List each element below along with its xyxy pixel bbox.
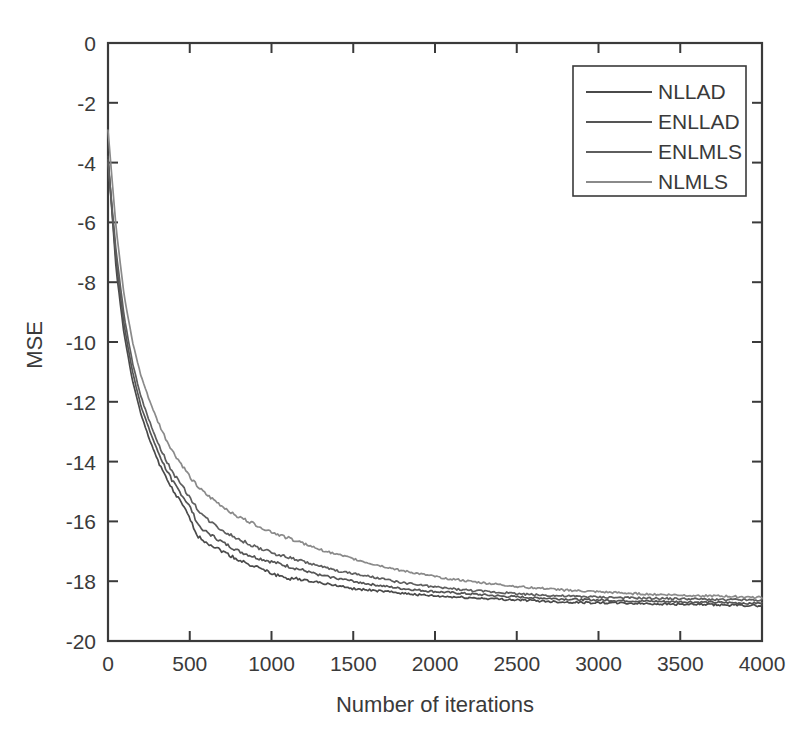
y-tick-label: 0 bbox=[84, 32, 96, 55]
y-tick-label: -4 bbox=[77, 152, 96, 175]
y-tick-label: -20 bbox=[66, 630, 96, 653]
x-tick-label: 2500 bbox=[493, 652, 540, 675]
y-tick-label: -14 bbox=[66, 451, 97, 474]
y-tick-label: -16 bbox=[66, 510, 96, 533]
y-tick-label: -10 bbox=[66, 331, 96, 354]
x-tick-label: 1500 bbox=[330, 652, 377, 675]
x-tick-label: 500 bbox=[172, 652, 207, 675]
legend-label-nlmls[interactable]: NLMLS bbox=[658, 170, 728, 193]
x-axis-title: Number of iterations bbox=[336, 692, 534, 717]
x-tick-label: 4000 bbox=[739, 652, 786, 675]
x-tick-label: 1000 bbox=[248, 652, 295, 675]
y-tick-label: -8 bbox=[77, 271, 96, 294]
mse-convergence-chart: 05001000150020002500300035004000 0-2-4-6… bbox=[0, 0, 790, 755]
y-tick-label: -2 bbox=[77, 92, 96, 115]
legend-label-enllad[interactable]: ENLLAD bbox=[658, 110, 740, 133]
legend-label-nllad[interactable]: NLLAD bbox=[658, 80, 726, 103]
x-tick-label: 0 bbox=[102, 652, 114, 675]
x-axis-tick-labels: 05001000150020002500300035004000 bbox=[102, 652, 785, 675]
legend: NLLADENLLADENLMLSNLMLS bbox=[573, 66, 746, 196]
figure-container: 05001000150020002500300035004000 0-2-4-6… bbox=[0, 0, 790, 755]
x-tick-label: 2000 bbox=[412, 652, 459, 675]
x-tick-label: 3500 bbox=[657, 652, 704, 675]
x-tick-label: 3000 bbox=[575, 652, 622, 675]
legend-label-enlmls[interactable]: ENLMLS bbox=[658, 140, 742, 163]
y-tick-label: -12 bbox=[66, 391, 96, 414]
y-tick-label: -18 bbox=[66, 570, 96, 593]
y-tick-label: -6 bbox=[77, 211, 96, 234]
y-axis-title: MSE bbox=[22, 321, 47, 369]
